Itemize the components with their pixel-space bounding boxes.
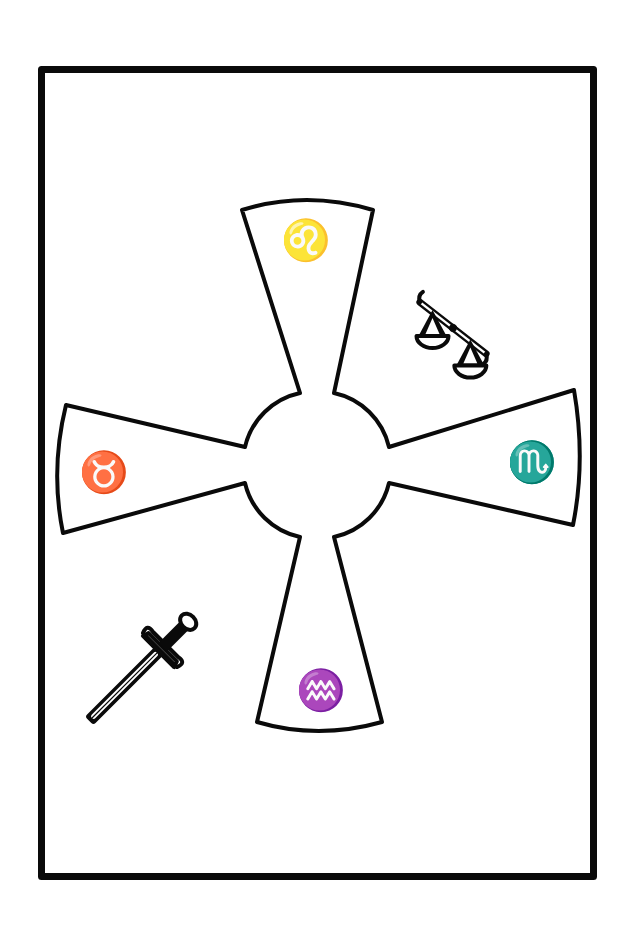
scales-icon (393, 290, 505, 393)
scorpio-icon: ♏ (507, 439, 557, 485)
sword-icon (71, 599, 211, 739)
cross-outline (57, 200, 580, 731)
aquarius-icon: ♒ (296, 667, 346, 713)
leo-icon: ♌ (281, 217, 331, 263)
cross-diagram: ♌ ♏ ♒ ♉ (0, 0, 642, 935)
taurus-icon: ♉ (79, 449, 129, 495)
